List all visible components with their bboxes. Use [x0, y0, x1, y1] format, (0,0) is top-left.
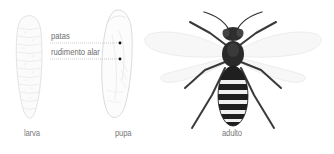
insect-life-cycle-diagram: patas rudimento alar larva pupa adulto: [0, 0, 334, 154]
wasp-abdomen: [215, 66, 251, 126]
callout-label-patas: patas: [51, 31, 70, 41]
stage-label-pupa: pupa: [115, 128, 131, 138]
callout-label-rudimento-alar: rudimento alar: [51, 47, 100, 57]
larva-illustration: [16, 16, 42, 118]
stage-label-adulto: adulto: [222, 128, 242, 138]
stage-label-larva: larva: [24, 128, 40, 138]
adult-wasp-illustration: [145, 12, 321, 128]
diagram-illustrations: [0, 0, 334, 154]
pupa-illustration: [102, 10, 132, 118]
